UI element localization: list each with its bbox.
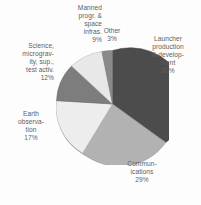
pie-label-manned-programme: Manned progr. & space infras. 9% bbox=[50, 4, 102, 44]
pie-label-other: Other 3% bbox=[96, 27, 128, 43]
pie-label-communications: Commun- ications 29% bbox=[113, 160, 171, 184]
pie-label-launcher-production-development: Launcher production & develop- ment 30% bbox=[137, 35, 199, 75]
pie-label-earth-observation: Earth observa- tion 17% bbox=[8, 110, 54, 142]
pie-label-science-microgravity: Science, micrograv- ity, sup., test acti… bbox=[4, 42, 54, 82]
pie-chart-figure: Manned progr. & space infras. 9% Other 3… bbox=[0, 0, 201, 205]
